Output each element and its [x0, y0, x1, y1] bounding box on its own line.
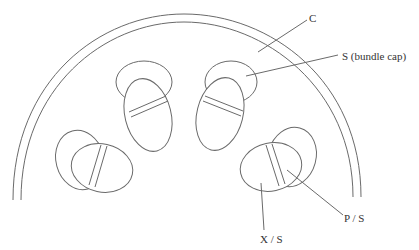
xylem-label: X / S — [260, 233, 283, 245]
vascular-bundle-top-right — [189, 61, 257, 155]
bundle-cap-label: S (bundle cap) — [342, 50, 406, 63]
stem-cross-section-diagram: C S (bundle cap) P / S X / S — [0, 0, 419, 250]
vascular-bundle-bottom-left — [49, 125, 137, 198]
bundle-body — [117, 74, 180, 157]
bundle-body — [236, 137, 307, 197]
outer-epidermis-arc — [13, 14, 361, 200]
phloem-leader-line — [287, 170, 343, 215]
phloem-label: P / S — [344, 212, 364, 224]
inner-epidermis-arc — [21, 22, 353, 200]
cortex-label: C — [309, 12, 316, 24]
bundle-cap-leader-line — [246, 55, 338, 76]
cortex-leader-line — [258, 20, 307, 52]
vascular-bundle-top-left — [116, 61, 179, 156]
bundle-body — [189, 73, 252, 156]
vascular-bundle-bottom-right — [236, 122, 323, 197]
